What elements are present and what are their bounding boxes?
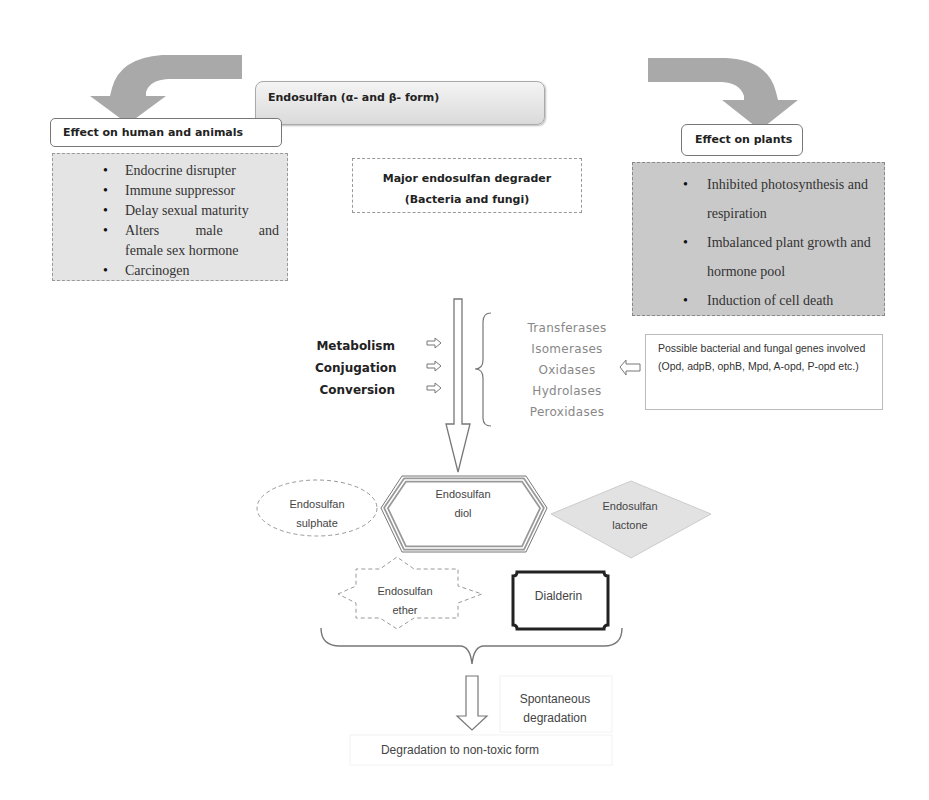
human-effect-text: male — [195, 221, 222, 241]
enzyme-item: Transferases — [497, 318, 637, 339]
enzyme-item: Oxidases — [497, 360, 637, 381]
metabolite-diol-line1: Endosulfan — [393, 485, 533, 504]
enzyme-item: Isomerases — [497, 339, 637, 360]
plant-effects-list-box: Inhibited photosynthesis and respiration… — [632, 162, 885, 316]
metabolite-ether: Endosulfan ether — [350, 582, 460, 620]
human-effects-list-box: Endocrine disrupter Immune suppressor De… — [52, 153, 288, 281]
metabolite-dialderin: Dialderin — [510, 587, 607, 606]
genes-text: Possible bacterial and fungal genes invo… — [658, 342, 865, 372]
metabolite-diol-line2: diol — [393, 504, 533, 521]
collection-brace-icon — [321, 628, 622, 664]
plant-effect-item: Imbalanced plant growth and hormone pool — [633, 228, 884, 286]
human-effects-header: Effect on human and animals — [50, 118, 282, 147]
metabolite-ether-line2: ether — [350, 601, 460, 620]
human-effect-item: Delay sexual maturity — [53, 201, 287, 221]
curved-arrow-left-icon — [90, 55, 242, 124]
degrader-box: Major endosulfan degrader (Bacteria and … — [352, 158, 582, 213]
small-arrow-icons — [427, 338, 441, 393]
human-effect-item: Alters male and female sex hormone — [53, 221, 287, 261]
source-compound-box: Endosulfan (α- and β- form) — [255, 81, 545, 125]
genes-box: Possible bacterial and fungal genes invo… — [645, 334, 883, 410]
human-effect-item: Carcinogen — [53, 261, 287, 281]
metabolite-lactone: Endosulfan lactone — [560, 497, 700, 537]
degrader-title: Major endosulfan degrader — [353, 168, 581, 189]
process-conversion: Conversion — [315, 379, 395, 401]
metabolite-lactone-line1: Endosulfan — [560, 497, 700, 516]
final-outcome: Degradation to non-toxic form — [330, 743, 590, 757]
human-effects-list: Endocrine disrupter Immune suppressor De… — [53, 154, 287, 281]
process-conjugation: Conjugation — [315, 357, 395, 379]
source-compound-label: Endosulfan (α- and β- form) — [268, 91, 439, 104]
enzyme-brace-icon — [475, 313, 491, 426]
final-outcome-label: Degradation to non-toxic form — [381, 743, 539, 757]
degrader-subtitle: (Bacteria and fungi) — [353, 189, 581, 210]
metabolite-sulphate-line1: Endosulfan — [267, 495, 367, 514]
human-effect-item: Endocrine disrupter — [53, 161, 287, 181]
human-effect-text: Alters — [125, 221, 159, 241]
human-effect-text: female sex hormone — [125, 243, 239, 258]
process-labels: Metabolism Conjugation Conversion — [315, 335, 395, 401]
plant-effect-item: Inhibited photosynthesis and respiration — [633, 170, 884, 228]
metabolite-lactone-line2: lactone — [560, 516, 700, 535]
spontaneous-line1: Spontaneous — [505, 690, 605, 709]
spontaneous-line2: degradation — [505, 709, 605, 728]
plant-effect-item: Induction of cell death — [633, 286, 884, 315]
human-effect-item: Immune suppressor — [53, 181, 287, 201]
plant-effects-list: Inhibited photosynthesis and respiration… — [633, 163, 884, 315]
spontaneous-degradation: Spontaneous degradation — [505, 690, 605, 728]
enzyme-item: Hydrolases — [497, 381, 637, 402]
metabolite-dialderin-label: Dialderin — [535, 589, 582, 603]
human-effect-text: and — [259, 221, 279, 241]
plant-effects-header: Effect on plants — [681, 124, 803, 156]
main-down-arrow-icon — [446, 299, 470, 472]
enzyme-item: Peroxidases — [497, 402, 637, 423]
curved-arrow-right-icon — [648, 58, 798, 130]
metabolite-sulphate: Endosulfan sulphate — [267, 495, 367, 533]
process-metabolism: Metabolism — [315, 335, 395, 357]
metabolite-sulphate-line2: sulphate — [267, 514, 367, 533]
plant-effects-title: Effect on plants — [695, 133, 792, 146]
final-down-arrow-icon — [457, 676, 487, 730]
metabolite-diol: Endosulfan diol — [393, 485, 533, 521]
metabolite-ether-line1: Endosulfan — [350, 582, 460, 601]
enzyme-list: Transferases Isomerases Oxidases Hydrola… — [497, 318, 637, 423]
human-effects-title: Effect on human and animals — [63, 126, 243, 139]
